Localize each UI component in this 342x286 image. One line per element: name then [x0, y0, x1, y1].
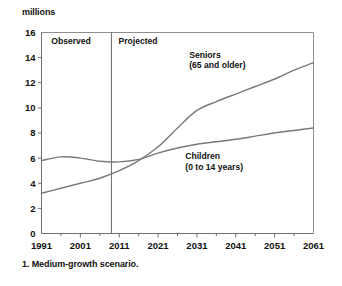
seniors-label-line2: (65 and older)	[189, 60, 245, 70]
y-tick-label: 14	[25, 52, 36, 63]
children-label-line1: Children	[185, 151, 220, 161]
y-tick-label: 8	[30, 127, 35, 138]
seniors-label-line1: Seniors	[189, 50, 221, 60]
x-tick-label: 2061	[303, 240, 325, 251]
chart-footnote: 1. Medium-growth scenario.	[22, 259, 138, 269]
x-tick-label: 2011	[109, 240, 130, 251]
y-tick-label: 10	[25, 102, 36, 113]
x-tick-label: 2051	[264, 240, 286, 251]
zone-label-projected: Projected	[118, 36, 157, 46]
population-projection-chart: millions 0246810121416199120012011202120…	[0, 0, 342, 286]
x-tick-label: 2041	[225, 240, 247, 251]
y-tick-label: 2	[30, 203, 35, 214]
chart-plot-area: 0246810121416199120012011202120312041205…	[0, 0, 342, 286]
children-label-line2: (0 to 14 years)	[185, 162, 243, 172]
x-tick-label: 2001	[70, 240, 92, 251]
y-tick-label: 6	[30, 153, 35, 164]
y-tick-label: 0	[30, 228, 35, 239]
x-tick-label: 2031	[186, 240, 208, 251]
y-tick-label: 12	[25, 77, 36, 88]
y-tick-label: 4	[30, 178, 36, 189]
x-tick-label: 2021	[148, 240, 170, 251]
series-line-seniors	[42, 63, 314, 194]
x-tick-label: 1991	[31, 240, 53, 251]
zone-label-observed: Observed	[51, 36, 91, 46]
y-tick-label: 16	[25, 27, 36, 38]
series-line-children	[42, 128, 314, 162]
